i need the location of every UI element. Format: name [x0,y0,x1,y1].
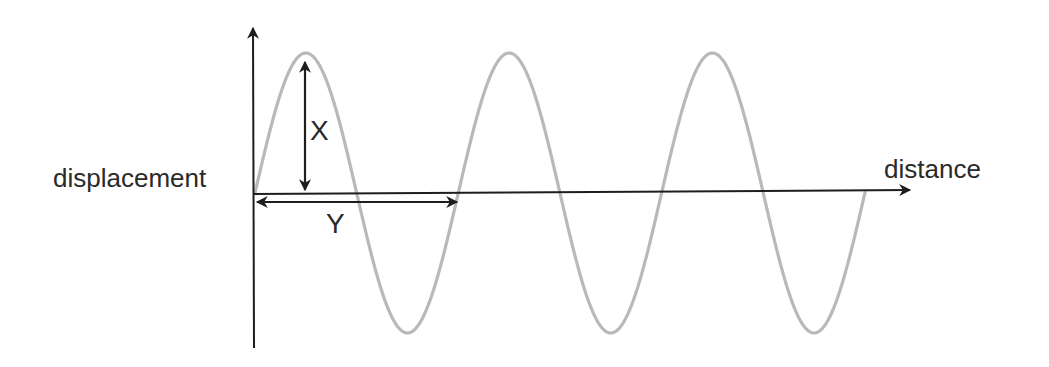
x-axis [253,190,910,194]
wave-diagram: displacement distance X Y [0,0,1049,367]
x-axis-label: distance [884,154,981,184]
amplitude-label: X [310,115,329,146]
wavelength-label: Y [326,208,345,239]
y-axis-label: displacement [53,163,207,193]
y-axis [253,28,254,348]
